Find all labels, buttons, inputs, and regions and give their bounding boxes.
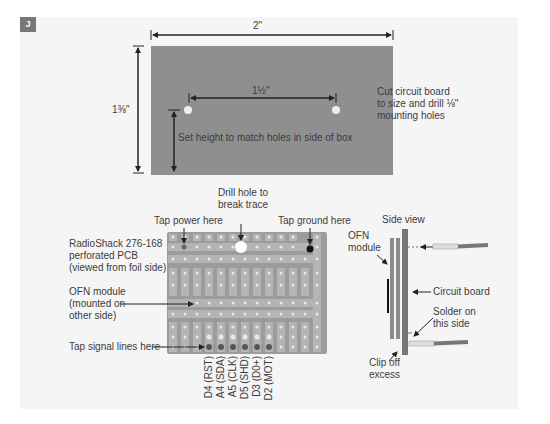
- width-dimension: 2": [253, 20, 262, 32]
- signal-label-d2: D2 (MOT): [263, 356, 274, 400]
- diagram-graphics: [0, 0, 550, 424]
- ofn-module-line-1: OFN: [348, 230, 369, 242]
- height-note: Set height to match holes in side of box: [178, 132, 353, 144]
- solder-note-line-1: Solder on: [433, 306, 476, 318]
- signal-label-a5: A5 (CLK): [227, 356, 238, 397]
- instruction-line-2: to size and drill ⅛": [377, 98, 458, 110]
- signal-label-d5: D5 (SHD): [239, 356, 250, 399]
- ofn-label-line-3: other side): [69, 310, 116, 322]
- solder-note-line-2: this side: [433, 318, 470, 330]
- circuit-board-label: Circuit board: [433, 286, 490, 298]
- ofn-label-line-1: OFN module: [69, 286, 126, 298]
- instruction-line-3: mounting holes: [377, 110, 445, 122]
- height-dimension: 1⅜": [112, 104, 129, 116]
- pcb-label-line-3: (viewed from foil side): [69, 262, 166, 274]
- instruction-line-1: Cut circuit board: [377, 86, 450, 98]
- pcb-label-line-2: perforated PCB: [69, 250, 138, 262]
- tap-signal-label: Tap signal lines here: [69, 341, 160, 353]
- cut-board: [133, 30, 393, 175]
- ofn-module-line-2: module: [348, 242, 381, 254]
- tap-power-label: Tap power here: [154, 215, 223, 227]
- drill-note-line-2: break trace: [218, 199, 268, 211]
- clip-note-line-1: Clip off: [369, 357, 400, 369]
- side-view-title: Side view: [382, 214, 425, 226]
- clip-note-line-2: excess: [369, 369, 400, 381]
- signal-label-d3: D3 (D0+): [251, 356, 262, 397]
- tap-ground-label: Tap ground here: [278, 215, 351, 227]
- ofn-label-line-2: (mounted on: [69, 298, 125, 310]
- pcb-label-line-1: RadioShack 276-168: [69, 238, 162, 250]
- signal-label-a4: A4 (SDA): [215, 356, 226, 398]
- hole-spacing-dimension: 1½": [252, 85, 269, 97]
- signal-label-d4: D4 (RST): [203, 356, 214, 398]
- drill-note-line-1: Drill hole to: [218, 187, 268, 199]
